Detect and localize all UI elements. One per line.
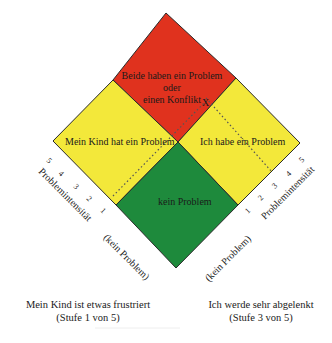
caption-child-line1: Mein Kind ist etwas frustriert xyxy=(18,298,158,311)
marker-x: X xyxy=(202,97,210,108)
right-tick-4: 4 xyxy=(284,169,293,178)
right-axis-zero-label: (kein Problem) xyxy=(203,233,254,284)
conflict-label-line3: einen Konflikt xyxy=(143,94,201,105)
left-tick-5: 5 xyxy=(45,156,54,165)
left-tick-1: 1 xyxy=(99,206,108,215)
left-tick-3: 3 xyxy=(72,182,81,191)
conflict-label-line1: Beide haben ein Problem xyxy=(122,70,223,81)
child-problem-label: Mein Kind hat ein Problem xyxy=(65,136,175,147)
caption-me-line1: Ich werde sehr abgelenkt xyxy=(198,298,324,311)
right-tick-5: 5 xyxy=(297,155,306,164)
conflict-label-line2: oder xyxy=(163,82,181,93)
problem-ownership-diagram: Beide haben ein Problem oder einen Konfl… xyxy=(0,0,332,343)
no-problem-label: kein Problem xyxy=(158,196,212,207)
caption-me: Ich werde sehr abgelenkt (Stufe 3 von 5) xyxy=(198,298,324,324)
right-tick-2: 2 xyxy=(256,193,265,202)
caption-child-line2: (Stufe 1 von 5) xyxy=(18,311,158,324)
left-axis-zero-label: (kein Problem) xyxy=(101,232,152,283)
caption-me-line2: (Stufe 3 von 5) xyxy=(198,311,324,324)
right-tick-1: 1 xyxy=(243,206,252,215)
left-tick-4: 4 xyxy=(57,169,66,178)
right-tick-3: 3 xyxy=(270,181,279,190)
left-tick-2: 2 xyxy=(85,194,94,203)
caption-child: Mein Kind ist etwas frustriert (Stufe 1 … xyxy=(18,298,158,324)
my-problem-label: Ich habe ein Problem xyxy=(200,136,285,147)
